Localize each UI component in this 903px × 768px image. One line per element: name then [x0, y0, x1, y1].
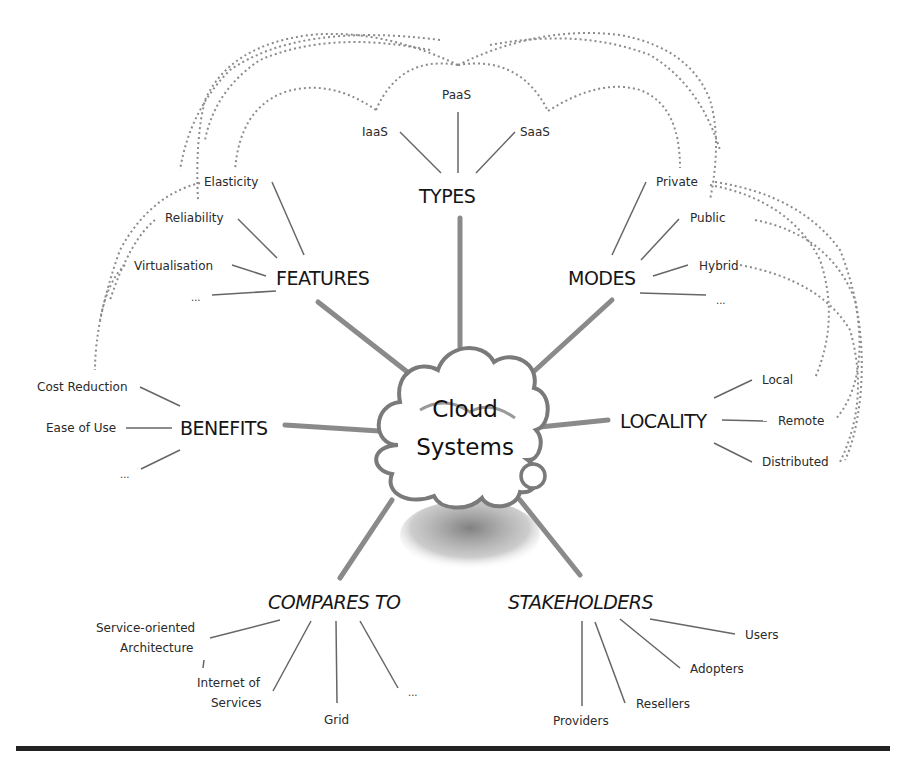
cloud-systems-mind-map: Cloud Systems TYPES IaaS PaaS SaaS FEATU… — [0, 0, 903, 768]
node-remote: Remote — [778, 414, 824, 428]
category-modes: MODES — [568, 267, 636, 289]
node-providers: Providers — [553, 714, 609, 728]
node-hybrid: Hybrid — [699, 259, 739, 273]
node-cost-reduction: Cost Reduction — [37, 380, 127, 394]
center-label-line2: Systems — [405, 433, 525, 461]
node-resellers: Resellers — [636, 697, 690, 711]
cloud-shadow — [400, 500, 540, 570]
node-soa-line2: Architecture — [120, 641, 193, 655]
category-benefits: BENEFITS — [180, 417, 267, 439]
node-ios-line1: Internet of — [197, 676, 260, 690]
node-modes-more: ... — [716, 296, 726, 306]
node-ease-of-use: Ease of Use — [46, 421, 116, 435]
category-stakeholders: STAKEHOLDERS — [508, 591, 653, 613]
node-compares-more: ... — [408, 688, 418, 698]
node-grid: Grid — [324, 713, 349, 727]
node-adopters: Adopters — [690, 662, 744, 676]
node-reliability: Reliability — [165, 211, 224, 225]
center-node: Cloud Systems — [405, 395, 525, 461]
node-public: Public — [690, 211, 726, 225]
center-label-line1: Cloud — [405, 395, 525, 423]
bottom-rule — [16, 746, 890, 751]
node-features-more: ... — [191, 293, 201, 303]
node-ios-line2: Services — [211, 696, 262, 710]
node-benefits-more: ... — [120, 470, 130, 480]
category-features: FEATURES — [276, 267, 369, 289]
node-saas: SaaS — [520, 125, 550, 139]
node-users: Users — [745, 628, 779, 642]
node-private: Private — [656, 175, 698, 189]
node-distributed: Distributed — [762, 455, 829, 469]
node-soa-line1: Service-oriented — [96, 621, 195, 635]
category-types: TYPES — [419, 185, 475, 207]
node-local: Local — [762, 373, 793, 387]
category-locality: LOCALITY — [620, 410, 707, 432]
node-elasticity: Elasticity — [204, 175, 258, 189]
category-compares-to: COMPARES TO — [268, 591, 401, 613]
node-virtualisation: Virtualisation — [134, 259, 213, 273]
node-iaas: IaaS — [362, 125, 388, 139]
node-paas: PaaS — [442, 88, 471, 102]
